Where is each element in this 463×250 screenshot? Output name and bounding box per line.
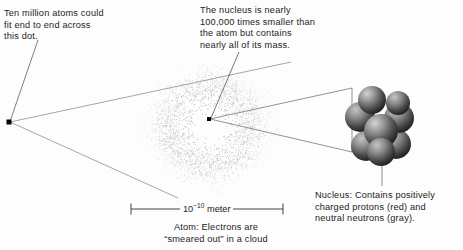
nucleon-sphere: [358, 86, 386, 114]
nucleus-sphere-cluster: [345, 86, 414, 166]
caption-text-atom: Atom: Electrons are “smeared out” in a c…: [142, 222, 290, 245]
electron-cloud: [137, 53, 281, 194]
scale-bar-exponent: −10: [193, 202, 204, 209]
nucleus-marker-dot: [207, 117, 211, 121]
callout-text-nucleus-size: The nucleus is nearly 100,000 times smal…: [200, 5, 348, 51]
magnification-cone-atom: [10, 62, 291, 198]
nucleon-sphere: [367, 138, 395, 166]
scale-bar-base: 10: [183, 204, 193, 214]
callout-text-reference-dot: Ten million atoms could fit end to end a…: [4, 8, 134, 43]
leader-line-dot-callout: [11, 40, 39, 120]
reference-dot-marker: [7, 120, 12, 125]
caption-text-nucleus: Nucleus: Contains positively charged pro…: [315, 190, 461, 225]
scale-bar-unit: meter: [207, 204, 231, 214]
scale-bar-label: 10−10 meter: [180, 202, 233, 214]
atom-diagram: Ten million atoms could fit end to end a…: [0, 0, 463, 250]
magnification-cone-nucleus: [210, 88, 352, 152]
nucleon-sphere: [386, 91, 410, 115]
